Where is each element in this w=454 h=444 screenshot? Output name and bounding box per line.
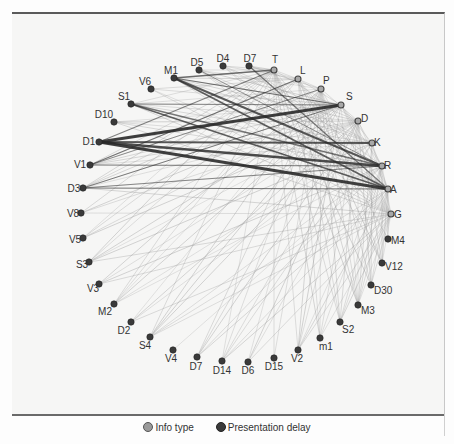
edge — [99, 142, 372, 143]
legend-label-presentation-delay: Presentation delay — [228, 422, 311, 433]
node-t[interactable] — [271, 67, 277, 73]
node-label-p: P — [323, 75, 330, 86]
node-label-v1: V1 — [74, 159, 87, 170]
legend-item-info-type: Info type — [143, 419, 193, 435]
node-label-d15: D15 — [265, 361, 284, 372]
node-d7[interactable] — [194, 354, 200, 360]
node-label-d7: D7 — [190, 361, 203, 372]
node-label-m2: M2 — [98, 306, 112, 317]
presentation-delay-swatch-icon — [216, 422, 226, 432]
node-label-v5: V5 — [69, 234, 82, 245]
node-label-s3: S3 — [76, 259, 89, 270]
node-label-m1: M1 — [164, 65, 178, 76]
node-label-s: S — [346, 91, 353, 102]
edge — [83, 79, 298, 188]
node-label-d30: D30 — [374, 285, 393, 296]
node-label-d4: D4 — [217, 53, 230, 64]
legend-item-presentation-delay: Presentation delay — [216, 419, 311, 435]
edge — [150, 166, 382, 337]
node-label-d3: D3 — [68, 183, 81, 194]
node-label-v6: V6 — [139, 76, 152, 87]
node-label-s1: S1 — [118, 91, 131, 102]
node-label-d6: D6 — [242, 365, 255, 376]
node-label-d10: D10 — [95, 109, 114, 120]
node-label-m4: M4 — [391, 235, 405, 246]
node-label-s4: S4 — [139, 340, 152, 351]
panel-bottom-rule — [12, 414, 444, 416]
node-v1[interactable] — [87, 162, 93, 168]
node-label-v3: V3 — [87, 283, 100, 294]
node-label-t: T — [272, 54, 278, 65]
edge — [81, 213, 391, 214]
network-graph: TLPSDKRAGM4V12D30M3S2m1V2D15D6D14D7V4S4D… — [0, 0, 454, 414]
legend-label-info-type: Info type — [155, 422, 193, 433]
node-label-a: A — [390, 184, 397, 195]
node-label-d5: D5 — [191, 57, 204, 68]
node-label-m3: M3 — [361, 305, 375, 316]
node-d14[interactable] — [219, 358, 225, 364]
node-label-d: D — [361, 113, 368, 124]
node-p[interactable] — [318, 86, 324, 92]
node-label-m1: m1 — [319, 341, 333, 352]
node-label-v12: V12 — [385, 261, 403, 272]
node-l[interactable] — [295, 76, 301, 82]
info-type-swatch-icon — [143, 422, 153, 432]
node-label-d14: D14 — [213, 365, 232, 376]
edge — [83, 188, 388, 189]
edge — [114, 79, 298, 304]
node-label-s2: S2 — [342, 324, 355, 335]
node-d3[interactable] — [80, 185, 86, 191]
node-s[interactable] — [338, 102, 344, 108]
node-d1[interactable] — [96, 139, 102, 145]
node-label-d1: D1 — [83, 136, 96, 147]
node-label-v8: V8 — [67, 208, 80, 219]
node-label-v4: V4 — [165, 353, 178, 364]
legend: Info type Presentation delay — [0, 419, 454, 435]
node-label-g: G — [394, 209, 402, 220]
node-label-k: K — [374, 137, 381, 148]
node-label-r: R — [384, 160, 391, 171]
node-label-d7: D7 — [244, 53, 257, 64]
node-label-d2: D2 — [118, 325, 131, 336]
node-label-v2: V2 — [291, 353, 304, 364]
node-label-l: L — [300, 65, 306, 76]
